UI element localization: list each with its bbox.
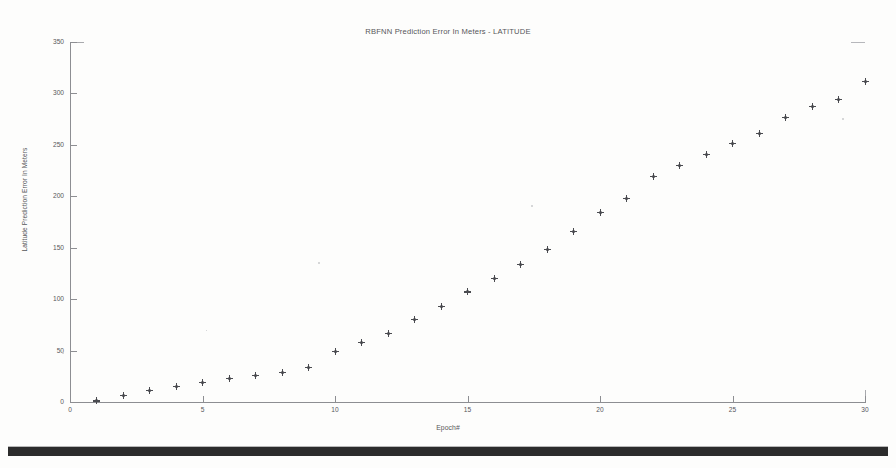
x-tick-label: 5 — [183, 406, 223, 413]
y-tick-label: 300 — [22, 89, 64, 96]
y-tick-label: 150 — [22, 244, 64, 251]
data-point — [809, 103, 816, 110]
data-point — [703, 151, 710, 158]
data-point — [199, 379, 206, 386]
data-point — [411, 316, 418, 323]
x-tick-label: 25 — [713, 406, 753, 413]
data-point — [517, 261, 524, 268]
scan-speck — [531, 205, 533, 207]
data-point — [623, 195, 630, 202]
scanned-page: RBFNN Prediction Error In Meters - LATIT… — [0, 0, 896, 468]
data-point — [385, 330, 392, 337]
data-point — [305, 364, 312, 371]
data-point — [491, 275, 498, 282]
y-tick-label: 100 — [22, 295, 64, 302]
data-point — [597, 209, 604, 216]
data-point — [252, 372, 259, 379]
data-point — [146, 387, 153, 394]
data-point — [544, 246, 551, 253]
y-tick-label: 350 — [22, 38, 64, 45]
data-point — [756, 130, 763, 137]
x-tick-mark — [865, 396, 866, 403]
plot-area — [70, 42, 865, 402]
data-point — [464, 288, 471, 295]
data-point — [676, 162, 683, 169]
y-tick-label: 0 — [22, 398, 64, 405]
data-point — [120, 392, 127, 399]
data-point — [729, 140, 736, 147]
chart-title: RBFNN Prediction Error In Meters - LATIT… — [0, 27, 896, 36]
data-point — [835, 96, 842, 103]
y-tick-label: 200 — [22, 192, 64, 199]
data-point — [358, 339, 365, 346]
data-point — [93, 397, 100, 404]
data-point — [650, 173, 657, 180]
x-tick-label: 20 — [580, 406, 620, 413]
data-point — [782, 114, 789, 121]
data-point — [279, 369, 286, 376]
scan-artifact-bar — [8, 447, 888, 456]
x-tick-label: 30 — [845, 406, 885, 413]
x-tick-label: 10 — [315, 406, 355, 413]
scan-speck — [842, 118, 844, 120]
data-point — [226, 375, 233, 382]
x-axis-label: Epoch# — [0, 424, 896, 431]
data-point — [332, 348, 339, 355]
x-tick-label: 15 — [448, 406, 488, 413]
scan-speck — [206, 330, 207, 331]
x-tick-label: 0 — [50, 406, 90, 413]
y-tick-mark — [70, 402, 77, 403]
scan-speck — [62, 352, 64, 354]
data-point — [570, 228, 577, 235]
y-axis-label: Latitude Prediction Error In Meters — [21, 100, 28, 300]
data-point — [438, 303, 445, 310]
y-tick-label: 250 — [22, 141, 64, 148]
y-tick-label: 50 — [22, 347, 64, 354]
scan-speck — [318, 262, 320, 264]
data-point — [173, 383, 180, 390]
chart-figure: RBFNN Prediction Error In Meters - LATIT… — [0, 0, 896, 440]
data-point — [862, 78, 869, 85]
